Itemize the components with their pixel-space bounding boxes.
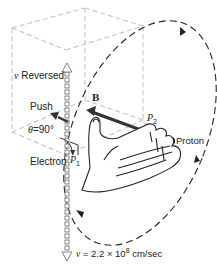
orbit-arrow-right [194, 155, 200, 163]
label-p1: P1 [70, 155, 80, 167]
label-electron: Electron [30, 157, 67, 167]
orbit-arrow-bottom [76, 210, 84, 218]
label-proton: Proton [176, 136, 204, 146]
label-v-reversed: v Reversed [14, 71, 64, 81]
label-push: Push [30, 102, 53, 112]
orbit-arrow-top [180, 27, 186, 36]
label-p2: P2 [147, 113, 157, 125]
label-velocity: v = 2.2 × 108 cm/sec [76, 247, 162, 260]
push-arrowhead [50, 112, 59, 120]
orbit-path [34, 0, 217, 267]
hand-illustration [82, 117, 181, 192]
label-theta: θ=90° [28, 125, 54, 135]
label-field-b: B [92, 92, 99, 103]
